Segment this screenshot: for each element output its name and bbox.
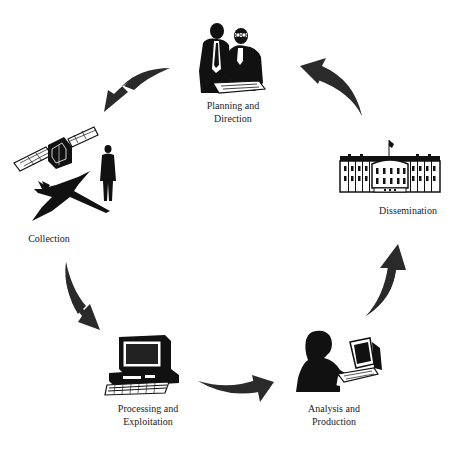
arrow-planning-to-collection [104, 68, 170, 112]
cycle-arrows [0, 0, 464, 453]
arrow-dissemination-to-planning [300, 58, 362, 116]
